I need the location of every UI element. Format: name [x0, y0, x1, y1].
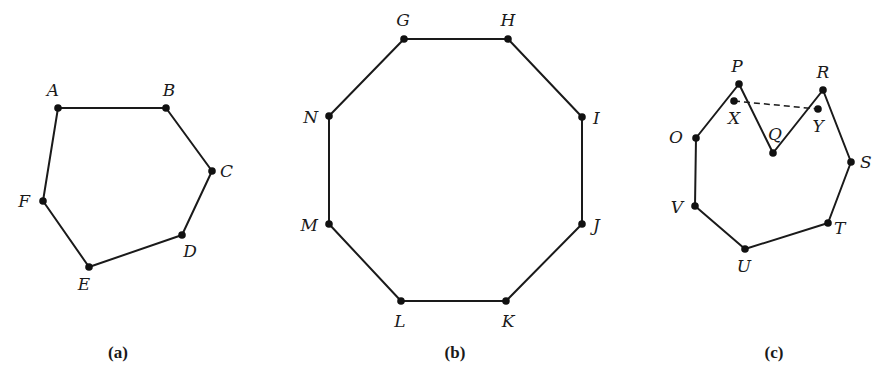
label-s: S: [860, 152, 872, 172]
vertex-v: [691, 202, 699, 210]
polygon-outline: [329, 39, 582, 301]
vertex-g: [400, 35, 408, 43]
figure-c-concave-octagon: PQRSTUVOXY(c): [669, 56, 872, 362]
vertex-s: [847, 158, 855, 166]
vertex-c: [208, 167, 216, 175]
label-b: B: [162, 80, 176, 100]
label-e: E: [77, 274, 91, 294]
dashed-segment-xy: [734, 101, 818, 109]
label-h: H: [500, 10, 517, 30]
label-g: G: [396, 10, 410, 30]
figure-caption: (a): [108, 343, 128, 362]
figure-caption: (c): [765, 343, 784, 362]
vertex-i: [578, 113, 586, 121]
label-c: C: [220, 161, 233, 181]
label-v: V: [671, 197, 685, 217]
vertex-a: [54, 104, 62, 112]
vertex-k: [502, 297, 510, 305]
vertex-p: [735, 80, 743, 88]
vertex-q: [769, 149, 777, 157]
label-u: U: [737, 256, 752, 276]
label-t: T: [834, 218, 847, 238]
label-f: F: [17, 191, 31, 211]
vertex-o: [692, 134, 700, 142]
label-k: K: [501, 311, 516, 331]
label-y: Y: [812, 116, 825, 136]
vertex-t: [824, 219, 832, 227]
label-l: L: [393, 311, 405, 331]
label-p: P: [730, 56, 743, 76]
label-r: R: [816, 62, 830, 82]
figure-a-convex-hexagon: ABCDEF(a): [17, 80, 233, 362]
polygon-diagram: ABCDEF(a) GHIJKLMN(b) PQRSTUVOXY(c): [0, 0, 879, 387]
label-x: X: [726, 108, 741, 128]
label-d: D: [182, 241, 197, 261]
interior-point-y: [814, 105, 822, 113]
figure-caption: (b): [445, 343, 466, 362]
vertex-h: [504, 35, 512, 43]
vertex-b: [162, 104, 170, 112]
label-o: O: [669, 127, 683, 147]
label-n: N: [302, 107, 319, 127]
label-j: J: [590, 215, 601, 235]
vertex-u: [741, 245, 749, 253]
vertex-r: [819, 86, 827, 94]
label-a: A: [45, 80, 59, 100]
figure-b-regular-octagon: GHIJKLMN(b): [300, 10, 601, 362]
vertex-f: [39, 197, 47, 205]
label-i: I: [592, 108, 600, 128]
label-q: Q: [768, 124, 782, 144]
vertex-l: [397, 297, 405, 305]
vertex-m: [325, 220, 333, 228]
interior-point-x: [730, 97, 738, 105]
vertex-e: [85, 263, 93, 271]
vertex-d: [178, 231, 186, 239]
label-m: M: [300, 215, 319, 235]
vertex-n: [325, 112, 333, 120]
vertex-j: [578, 220, 586, 228]
